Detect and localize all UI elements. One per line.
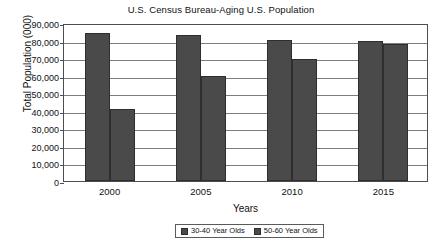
y-axis-tick-label: 70,000 bbox=[31, 56, 59, 65]
y-tick-mark bbox=[60, 130, 64, 131]
legend-entry: 50-60 Year Olds bbox=[254, 227, 318, 235]
bar bbox=[267, 40, 292, 181]
y-tick-mark bbox=[60, 60, 64, 61]
chart-legend: 30-40 Year Olds50-60 Year Olds bbox=[175, 224, 324, 238]
legend-label: 50-60 Year Olds bbox=[264, 227, 318, 235]
y-axis-tick-label: 50,000 bbox=[31, 91, 59, 100]
x-axis-tick-label: 2005 bbox=[190, 186, 211, 197]
y-tick-mark bbox=[60, 148, 64, 149]
bar bbox=[176, 35, 201, 181]
y-axis-tick-label: 10,000 bbox=[31, 161, 59, 170]
x-axis-tick-label: 2000 bbox=[99, 186, 120, 197]
bar-chart-figure: U.S. Census Bureau-Aging U.S. Population… bbox=[0, 0, 442, 247]
y-tick-mark bbox=[60, 113, 64, 114]
bar bbox=[383, 44, 408, 181]
bar bbox=[201, 76, 226, 181]
y-axis-tick-label: 0 bbox=[54, 179, 59, 188]
y-axis-tick-label: 80,000 bbox=[31, 38, 59, 47]
y-tick-mark bbox=[60, 165, 64, 166]
x-axis-tick-label: 2015 bbox=[373, 186, 394, 197]
bar bbox=[85, 33, 110, 181]
bar bbox=[292, 59, 317, 181]
legend-label: 30-40 Year Olds bbox=[191, 227, 245, 235]
y-axis-tick-label: 60,000 bbox=[31, 73, 59, 82]
legend-entry: 30-40 Year Olds bbox=[181, 227, 245, 235]
y-axis-tick-label: 40,000 bbox=[31, 108, 59, 117]
y-tick-mark bbox=[60, 95, 64, 96]
bar bbox=[110, 109, 135, 181]
y-tick-mark bbox=[60, 43, 64, 44]
y-tick-mark bbox=[60, 25, 64, 26]
chart-title: U.S. Census Bureau-Aging U.S. Population bbox=[0, 4, 442, 15]
legend-swatch-icon bbox=[254, 228, 261, 235]
y-tick-mark bbox=[60, 183, 64, 184]
x-axis-title: Years bbox=[63, 203, 428, 214]
y-axis-tick-label: 20,000 bbox=[31, 143, 59, 152]
y-tick-mark bbox=[60, 78, 64, 79]
bar bbox=[358, 41, 383, 181]
y-axis-tick-label: 90,000 bbox=[31, 21, 59, 30]
y-axis-tick-label: 30,000 bbox=[31, 126, 59, 135]
x-axis-tick-label: 2010 bbox=[282, 186, 303, 197]
plot-area: 010,00020,00030,00040,00050,00060,00070,… bbox=[63, 24, 428, 182]
legend-swatch-icon bbox=[181, 228, 188, 235]
